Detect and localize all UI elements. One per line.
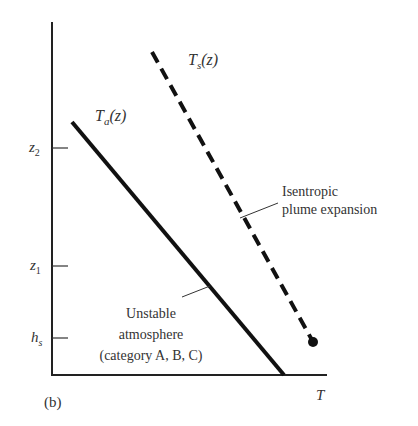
atmosphere-annotation-line3: (category A, B, C) — [88, 345, 214, 366]
plume-annotation-leader — [240, 203, 278, 218]
plume-annotation: Isentropic plume expansion — [282, 183, 377, 219]
plume-source-dot — [308, 337, 318, 347]
tick-label-hs: hs — [31, 330, 42, 348]
tick-label-z1: z1 — [30, 258, 41, 276]
atmosphere-annotation-line1: Unstable — [88, 303, 214, 324]
plume-curve-label: Ts(z) — [188, 52, 218, 71]
atmosphere-annotation-leader — [182, 286, 210, 297]
plume-annotation-line1: Isentropic — [282, 183, 377, 201]
ambient-curve-label: Ta(z) — [95, 108, 126, 127]
atmosphere-annotation-line2: atmosphere — [88, 324, 214, 345]
x-axis-label: T — [316, 388, 324, 403]
panel-label: (b) — [44, 395, 62, 410]
plume-annotation-line2: plume expansion — [282, 201, 377, 219]
atmosphere-annotation: Unstable atmosphere (category A, B, C) — [88, 303, 214, 366]
tick-label-z2: z2 — [29, 140, 40, 158]
